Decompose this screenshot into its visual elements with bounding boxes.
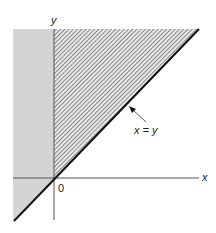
y-axis-label: y xyxy=(50,14,58,26)
x-axis-label: x xyxy=(201,171,208,183)
origin-label: 0 xyxy=(58,182,64,194)
line-label: x = y xyxy=(133,124,159,136)
left-shaded-region xyxy=(13,29,54,221)
diagram-canvas: y x 0 x = y xyxy=(0,0,216,233)
arrow-leader xyxy=(132,109,146,122)
